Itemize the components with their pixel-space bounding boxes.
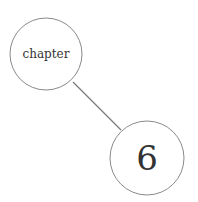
- node-chapter-label: chapter: [23, 47, 70, 61]
- diagram-canvas: chapter 6: [0, 0, 198, 202]
- node-6-label: 6: [136, 138, 158, 178]
- edge-chapter-to-6: [73, 82, 121, 130]
- node-6[interactable]: 6: [110, 121, 184, 195]
- node-chapter[interactable]: chapter: [10, 18, 82, 90]
